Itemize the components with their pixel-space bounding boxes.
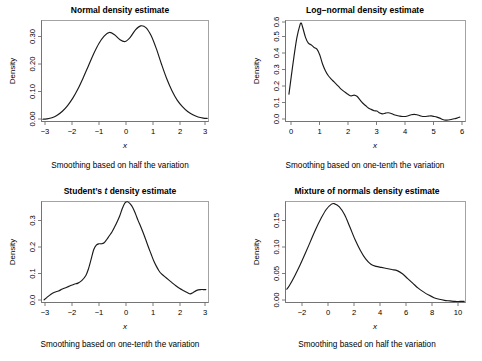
plot-frame-lognormal — [286, 21, 466, 122]
x-tick-label: 5 — [431, 127, 435, 136]
x-ticks-studentt: −3 −2 −1 0 1 2 3 — [41, 303, 207, 318]
x-axis-label-normal: x — [122, 141, 128, 150]
y-tick-label: 0.3 — [28, 215, 37, 226]
x-tick-label: 6 — [460, 127, 464, 136]
x-tick-label: 6 — [404, 308, 408, 317]
y-ticks-mixture: 0.00 0.05 0.10 0.15 — [272, 213, 286, 307]
plot-frame-mixture — [286, 202, 466, 303]
title-part-pre: Student’s — [64, 186, 105, 196]
panel-normal-density: Normal density estimate −3 −2 −1 0 1 2 3… — [0, 0, 241, 180]
y-tick-label: 0.4 — [272, 48, 281, 59]
x-tick-label: 0 — [326, 308, 330, 317]
x-tick-label: 0 — [124, 308, 128, 317]
y-tick-label: 0.0 — [272, 114, 281, 125]
x-tick-label: −1 — [95, 127, 104, 136]
density-curve-mixture — [287, 203, 464, 301]
panel-caption-lognormal: Smoothing based on one-tenth the variati… — [286, 161, 445, 170]
y-tick-label: 0.00 — [28, 112, 37, 127]
y-ticks-studentt: 0.0 0.1 0.2 0.3 — [28, 215, 42, 305]
density-curve-studentt — [44, 202, 206, 300]
panel-caption-studentt: Smoothing based on one-tenth the variati… — [41, 340, 200, 349]
panel-title-studentt: Student’s t density estimate — [64, 186, 177, 196]
x-tick-label: −3 — [41, 308, 50, 317]
y-tick-label: 0.00 — [272, 293, 281, 308]
title-part-post: density estimate — [107, 186, 176, 196]
density-curve-normal — [43, 26, 207, 119]
panel-title-lognormal: Log−normal density estimate — [306, 5, 424, 15]
panel-mixture-density: Mixture of normals density estimate −2 0… — [241, 181, 482, 361]
panel-caption-mixture: Smoothing based on half the variation — [298, 340, 436, 349]
y-axis-label-normal: Density — [8, 58, 17, 85]
y-tick-label: 0.1 — [272, 97, 281, 108]
y-tick-label: 0.5 — [272, 31, 281, 42]
y-tick-label: 0.20 — [28, 57, 37, 72]
y-ticks-normal: 0.00 0.10 0.20 0.30 — [28, 29, 42, 126]
x-ticks-lognormal: 0 1 2 3 4 5 6 — [289, 122, 464, 137]
y-tick-label: 0.0 — [28, 295, 37, 306]
x-tick-label: −2 — [68, 127, 77, 136]
x-ticks-mixture: −2 0 2 4 6 8 10 — [298, 303, 463, 318]
x-tick-label: 0 — [289, 127, 293, 136]
x-tick-label: 2 — [178, 308, 182, 317]
x-tick-label: 3 — [203, 308, 207, 317]
x-tick-label: 2 — [352, 308, 356, 317]
x-tick-label: 0 — [124, 127, 128, 136]
figure-canvas: Normal density estimate −3 −2 −1 0 1 2 3… — [0, 0, 482, 361]
panel-title-mixture: Mixture of normals density estimate — [294, 186, 439, 196]
x-tick-label: −2 — [298, 308, 307, 317]
density-curve-lognormal — [289, 23, 460, 120]
y-tick-label: 0.2 — [272, 81, 281, 92]
y-tick-label: 0.30 — [28, 29, 37, 44]
x-tick-label: 2 — [346, 127, 350, 136]
x-tick-label: −3 — [41, 127, 50, 136]
x-tick-label: 1 — [151, 308, 155, 317]
x-tick-label: 4 — [378, 308, 382, 317]
y-axis-label-lognormal: Density — [252, 58, 261, 85]
x-tick-label: −1 — [95, 308, 104, 317]
y-tick-label: 0.3 — [272, 64, 281, 75]
x-tick-label: 1 — [317, 127, 321, 136]
x-axis-label-studentt: x — [122, 322, 128, 331]
y-tick-label: 0.10 — [28, 84, 37, 99]
y-tick-label: 0.10 — [272, 240, 281, 255]
x-tick-label: 8 — [430, 308, 434, 317]
x-tick-label: −2 — [68, 308, 77, 317]
panel-studentt-density: Student’s t density estimate −3 −2 −1 0 … — [0, 181, 241, 361]
y-axis-label-studentt: Density — [8, 239, 17, 266]
x-tick-label: 3 — [374, 127, 378, 136]
y-tick-label: 0.2 — [28, 242, 37, 253]
x-ticks-normal: −3 −2 −1 0 1 2 3 — [41, 122, 207, 137]
y-tick-label: 0.6 — [272, 17, 281, 28]
y-tick-label: 0.05 — [272, 266, 281, 281]
x-axis-label-mixture: x — [372, 322, 378, 331]
y-axis-label-mixture: Density — [252, 239, 261, 266]
x-tick-label: 1 — [151, 127, 155, 136]
y-tick-label: 0.15 — [272, 213, 281, 228]
x-tick-label: 2 — [178, 127, 182, 136]
y-ticks-lognormal: 0.0 0.1 0.2 0.3 0.4 0.5 0.6 — [272, 17, 286, 125]
panel-lognormal-density: Log−normal density estimate 0 1 2 3 4 5 … — [241, 0, 482, 180]
x-tick-label: 3 — [203, 127, 207, 136]
panel-title-normal: Normal density estimate — [71, 5, 170, 15]
x-tick-label: 10 — [454, 308, 462, 317]
x-axis-label-lognormal: x — [372, 141, 378, 150]
x-tick-label: 4 — [403, 127, 407, 136]
y-tick-label: 0.1 — [28, 268, 37, 279]
panel-caption-normal: Smoothing based on half the variation — [51, 161, 189, 170]
